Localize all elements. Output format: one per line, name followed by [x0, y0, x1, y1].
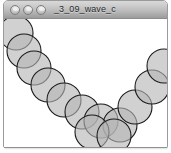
application-window: _3_09_wave_c: [3, 0, 168, 148]
wave-circle-chain-graphic: [4, 19, 167, 148]
window-drop-shadow: [4, 147, 168, 150]
window-controls-group: [10, 5, 46, 15]
drawing-canvas[interactable]: [4, 19, 167, 148]
wave-circle: [97, 119, 131, 148]
close-button[interactable]: [10, 5, 20, 15]
window-titlebar[interactable]: _3_09_wave_c: [4, 1, 167, 19]
zoom-button[interactable]: [36, 5, 46, 15]
circle-group: [4, 19, 167, 148]
minimize-button[interactable]: [23, 5, 33, 15]
window-title: _3_09_wave_c: [54, 5, 116, 14]
